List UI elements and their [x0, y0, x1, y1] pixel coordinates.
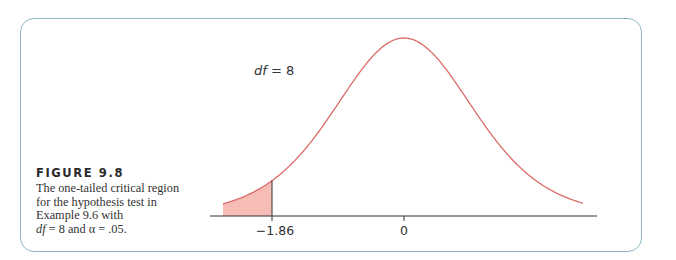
critical-value-label: −1.86	[256, 223, 294, 238]
figure-title: FIGURE 9.8	[36, 164, 206, 182]
df-annotation: df = 8	[254, 63, 294, 78]
zero-label: 0	[400, 223, 408, 238]
caption-line-4: df = 8 and α = .05.	[36, 223, 206, 237]
caption-line-1: The one-tailed critical region	[36, 182, 206, 196]
caption-line-2: for the hypothesis test in	[36, 196, 206, 210]
caption-df-symbol: df	[36, 222, 46, 236]
df-annotation-value: = 8	[267, 63, 294, 78]
caption-df-text: = 8 and	[46, 222, 89, 236]
figure-caption: FIGURE 9.8 The one-tailed critical regio…	[36, 164, 206, 236]
caption-line-3: Example 9.6 with	[36, 209, 206, 223]
caption-alpha-text: = .05.	[95, 222, 127, 236]
